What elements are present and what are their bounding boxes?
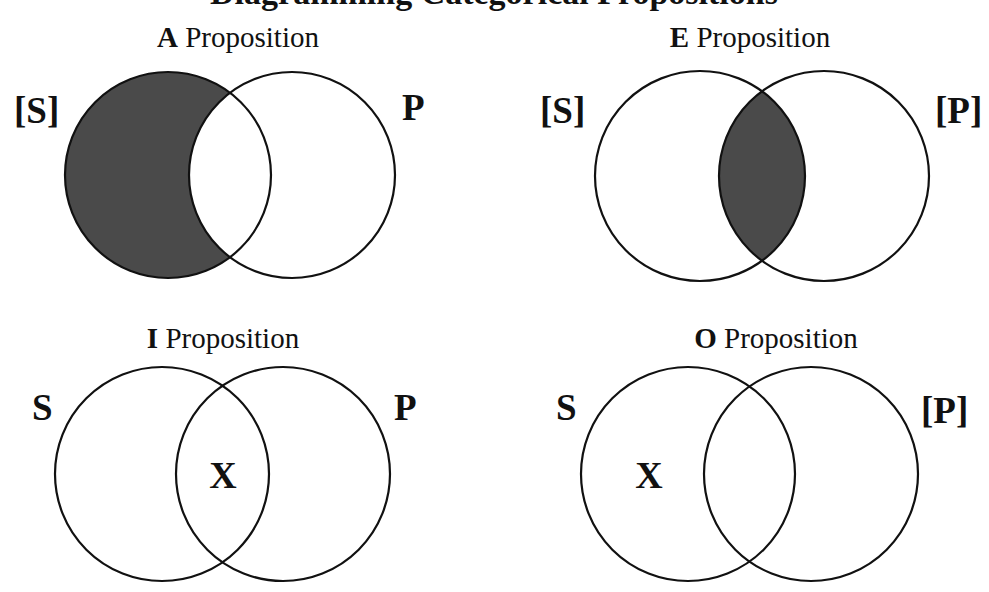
proposition-word: Proposition xyxy=(696,21,830,53)
predicate-label: [P] xyxy=(921,390,968,431)
subject-label: S xyxy=(556,387,577,428)
proposition-letter: I xyxy=(147,322,158,354)
diagram-i-proposition: I Proposition X S P xyxy=(32,322,417,581)
predicate-label: P xyxy=(394,387,417,428)
proposition-letter: E xyxy=(670,21,689,53)
diagram-o-proposition: O Proposition X S [P] xyxy=(556,322,968,581)
proposition-letter: O xyxy=(694,322,717,354)
diagram-e-proposition: E Proposition [S] [P] xyxy=(540,21,982,281)
circle-subject xyxy=(581,367,795,581)
diagram-title-e: E Proposition xyxy=(670,21,831,53)
diagram-title-a: A Proposition xyxy=(157,21,319,53)
subject-label: [S] xyxy=(14,90,59,131)
circle-predicate xyxy=(176,367,390,581)
predicate-label: P xyxy=(402,87,425,128)
page-title: Diagramming Categorical Propositions xyxy=(210,0,778,11)
proposition-letter: A xyxy=(157,21,178,53)
subject-label: S xyxy=(32,387,53,428)
subject-label: [S] xyxy=(540,90,585,131)
page-title-cutoff: Diagramming Categorical Propositions xyxy=(210,0,778,11)
diagram-title-i: I Proposition xyxy=(147,322,300,354)
circle-predicate xyxy=(704,367,918,581)
existence-x-mark: X xyxy=(209,454,236,496)
existence-x-mark: X xyxy=(635,454,662,496)
circle-subject xyxy=(55,367,269,581)
circle-predicate xyxy=(189,72,395,278)
predicate-label: [P] xyxy=(935,90,982,131)
proposition-word: Proposition xyxy=(724,322,858,354)
venn-diagrams-figure: Diagramming Categorical Propositions A P… xyxy=(0,0,989,592)
diagram-a-proposition: A Proposition [S] P xyxy=(0,0,425,300)
diagram-title-o: O Proposition xyxy=(694,322,858,354)
proposition-word: Proposition xyxy=(185,21,319,53)
proposition-word: Proposition xyxy=(165,322,299,354)
